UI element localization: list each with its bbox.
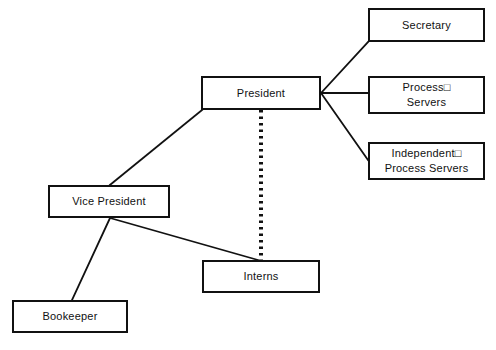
connector-vice-president-interns xyxy=(110,218,258,260)
node-label-independent-process-servers: Independent□ Process Servers xyxy=(381,146,473,176)
node-label-president: President xyxy=(233,86,289,101)
node-label-bookeeper: Bookeeper xyxy=(38,309,101,324)
node-independent-process-servers[interactable]: Independent□ Process Servers xyxy=(368,142,485,180)
connector-president-secretary xyxy=(321,42,368,93)
connector-president-vice-president xyxy=(110,110,202,185)
node-president[interactable]: President xyxy=(201,76,321,110)
node-label-secretary: Secretary xyxy=(398,18,455,33)
connector-vice-president-bookeeper xyxy=(72,218,110,300)
node-label-vice-president: Vice President xyxy=(68,194,150,209)
node-bookeeper[interactable]: Bookeeper xyxy=(12,300,128,333)
node-process-servers[interactable]: Process□ Servers xyxy=(368,76,485,114)
node-label-interns: Interns xyxy=(239,269,282,284)
org-chart-canvas: PresidentSecretaryProcess□ ServersIndepe… xyxy=(0,0,496,350)
connector-president-independent-process-servers xyxy=(321,93,368,160)
node-secretary[interactable]: Secretary xyxy=(368,8,485,42)
node-label-process-servers: Process□ Servers xyxy=(399,80,455,110)
node-vice-president[interactable]: Vice President xyxy=(48,185,170,218)
node-interns[interactable]: Interns xyxy=(202,260,320,293)
